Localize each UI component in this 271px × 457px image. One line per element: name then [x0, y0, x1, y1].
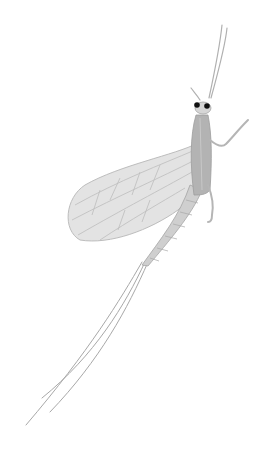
mayfly-illustration: [0, 0, 271, 457]
antennae: [191, 25, 227, 100]
thorax: [191, 115, 211, 195]
eye-left: [194, 102, 200, 108]
legs: [208, 120, 248, 222]
tail-cerci: [26, 262, 148, 425]
head: [194, 102, 211, 114]
eye-right: [204, 103, 210, 109]
